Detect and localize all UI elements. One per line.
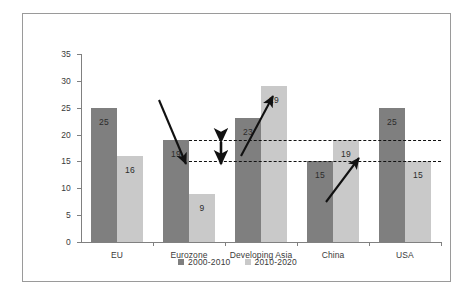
x-axis-line (81, 242, 442, 243)
y-axis-tick: 35 (77, 54, 81, 55)
bar (379, 108, 405, 242)
y-axis-tick-label: 0 (66, 237, 71, 247)
upper-dashed-line (189, 140, 441, 141)
legend-swatch-icon (178, 259, 184, 265)
legend-item[interactable]: 2000-2010 (178, 257, 230, 267)
y-axis-tick-label: 25 (61, 103, 71, 113)
bar-value-label: 9 (189, 203, 215, 213)
x-axis-tick (297, 242, 298, 246)
x-axis-tick (369, 242, 370, 246)
y-axis-tick-label: 15 (61, 156, 71, 166)
y-axis-tick-label: 30 (61, 76, 71, 86)
chart-legend: 2000-20102010-2020 (23, 257, 452, 267)
legend-label: 2010-2020 (255, 257, 297, 267)
bar-value-label: 25 (91, 117, 117, 127)
bar-value-label: 19 (163, 149, 189, 159)
y-axis-tick: 0 (77, 242, 81, 243)
y-axis-tick-label: 10 (61, 183, 71, 193)
plot-area: 05101520253035 2516199232915192515 EUEur… (81, 54, 441, 242)
x-axis-tick (153, 242, 154, 246)
y-axis-tick: 10 (77, 188, 81, 189)
y-axis-tick-label: 20 (61, 130, 71, 140)
bar (91, 108, 117, 242)
plot-inner: 05101520253035 2516199232915192515 EUEur… (81, 54, 441, 242)
legend-item[interactable]: 2010-2020 (245, 257, 297, 267)
bar-value-label: 16 (117, 165, 143, 175)
y-axis-tick: 20 (77, 135, 81, 136)
bar-value-label: 19 (333, 149, 359, 159)
y-axis-tick: 15 (77, 161, 81, 162)
y-axis-tick: 5 (77, 215, 81, 216)
bar-value-label: 15 (405, 170, 431, 180)
y-axis-tick: 25 (77, 108, 81, 109)
bar-value-label: 29 (261, 95, 287, 105)
y-axis-line (81, 54, 82, 243)
bar (261, 86, 287, 242)
bar-value-label: 25 (379, 117, 405, 127)
x-axis-tick (441, 242, 442, 246)
legend-swatch-icon (245, 259, 251, 265)
y-axis-tick: 30 (77, 81, 81, 82)
bar-value-label: 15 (307, 170, 333, 180)
x-axis-tick (225, 242, 226, 246)
chart-figure: 05101520253035 2516199232915192515 EUEur… (0, 0, 473, 300)
bar-value-label: 23 (235, 127, 261, 137)
y-axis-tick-label: 35 (61, 49, 71, 59)
lower-dashed-line (189, 161, 441, 162)
chart-frame: 05101520253035 2516199232915192515 EUEur… (22, 13, 451, 282)
bar (189, 194, 215, 242)
y-axis-tick-label: 5 (66, 210, 71, 220)
legend-label: 2000-2010 (188, 257, 230, 267)
